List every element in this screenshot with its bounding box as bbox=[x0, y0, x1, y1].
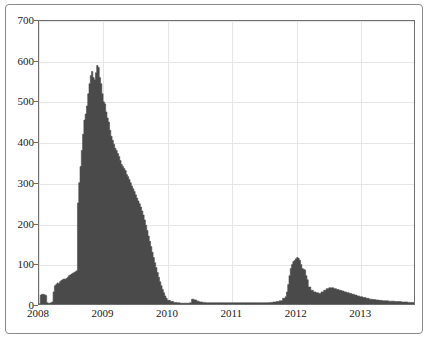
y-axis-tickmarks bbox=[0, 20, 38, 305]
y-tickmark-0 bbox=[34, 305, 38, 306]
x-tick-label-2012: 2012 bbox=[285, 308, 307, 319]
x-tick-label-2010: 2010 bbox=[156, 308, 178, 319]
x-axis-tick-labels: 200820092010201120122013 bbox=[38, 308, 415, 324]
x-tick-label-2013: 2013 bbox=[349, 308, 371, 319]
chart-figure: 0100200300400500600700 20082009201020112… bbox=[0, 0, 429, 340]
plot-area bbox=[38, 20, 415, 305]
x-tick-label-2009: 2009 bbox=[91, 308, 113, 319]
x-tick-label-2008: 2008 bbox=[27, 308, 49, 319]
x-tick-label-2011: 2011 bbox=[221, 308, 243, 319]
area-series-path bbox=[39, 65, 414, 304]
area-series-count bbox=[39, 21, 414, 304]
